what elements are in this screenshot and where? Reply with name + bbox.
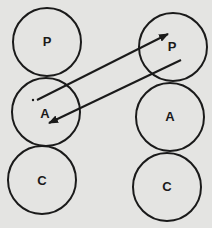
left-column: P A C	[8, 8, 81, 214]
left-c-label: C	[37, 173, 47, 188]
arrow-origin-dot	[32, 99, 34, 101]
right-circle-a: A	[136, 83, 204, 151]
right-p-label: P	[168, 39, 177, 54]
right-circle-c: C	[133, 153, 201, 221]
left-circle-c: C	[8, 146, 76, 214]
diagram-canvas: P A C P A C	[0, 0, 212, 228]
right-c-label: C	[162, 179, 172, 194]
left-a-label: A	[40, 106, 50, 121]
right-column: P A C	[133, 13, 207, 221]
right-a-label: A	[165, 109, 175, 124]
arrow-right-p-to-left-a	[49, 60, 181, 123]
diagram: P A C P A C	[0, 0, 212, 228]
right-circle-p: P	[139, 13, 207, 81]
left-circle-p: P	[13, 8, 81, 76]
left-p-label: P	[43, 34, 52, 49]
